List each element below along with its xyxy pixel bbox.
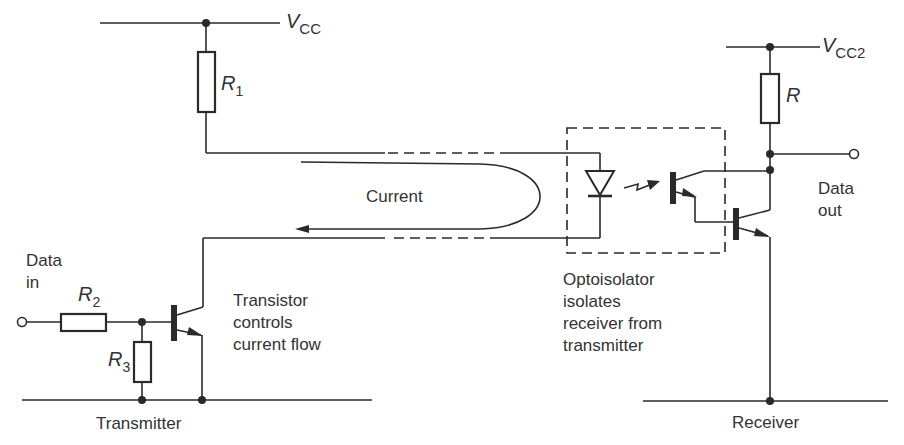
data-out-label: Data out <box>818 178 854 222</box>
data-out-terminal <box>770 150 859 159</box>
receiver-transistor <box>733 208 770 401</box>
resistor-r1 <box>198 23 215 153</box>
vcc2-rail <box>726 43 820 51</box>
data-in-terminal <box>18 318 62 327</box>
resistor-r <box>761 47 779 210</box>
light-emission-arrow <box>624 180 660 190</box>
resistor-r2 <box>61 314 173 331</box>
r3-label: R3 <box>108 348 130 371</box>
resistor-r3 <box>134 322 151 400</box>
data-in-label: Data in <box>26 250 62 294</box>
transistor-note: Transistor controls current flow <box>233 290 321 356</box>
vcc-label: VCC <box>286 10 321 33</box>
optoisolator-note: Optoisolator isolates receiver from tran… <box>563 269 662 357</box>
circuit-diagram <box>0 0 904 445</box>
vcc-rail <box>100 19 280 27</box>
transmitter-ground-rail <box>22 396 372 404</box>
optoisolator-box <box>567 128 725 253</box>
r1-label: R1 <box>221 72 243 95</box>
transmitter-label: Transmitter <box>96 413 181 435</box>
r2-label: R2 <box>78 283 100 306</box>
vcc2-label: VCC2 <box>822 34 865 57</box>
receiver-label: Receiver <box>732 412 799 434</box>
r-label: R <box>786 84 800 107</box>
receiver-ground-rail <box>643 397 888 405</box>
current-label: Current <box>366 186 423 208</box>
transmitter-transistor <box>171 305 203 400</box>
loop-wire-upper <box>206 153 600 171</box>
led-diode <box>586 171 614 218</box>
